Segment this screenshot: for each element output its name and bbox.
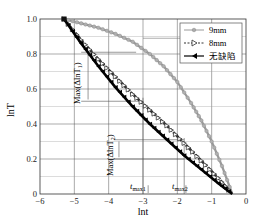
- data-marker: [131, 40, 135, 44]
- data-marker: [101, 27, 105, 31]
- data-marker: [202, 124, 206, 128]
- data-marker: [155, 58, 159, 62]
- data-marker: [215, 152, 219, 156]
- data-marker: [182, 91, 186, 95]
- y-axis-label: lnT: [5, 103, 16, 117]
- data-marker: [105, 29, 109, 33]
- y-tick-label: 0: [33, 189, 37, 199]
- data-marker: [88, 24, 92, 28]
- data-marker: [152, 55, 156, 59]
- max-delta-lnt2-label: Max(ΔlnT2): [105, 134, 116, 176]
- x-tick-label: 0: [244, 196, 248, 206]
- y-axis-ticks: 00.20.40.60.81.0: [26, 14, 37, 199]
- chart-container: −6−5−4−3−2−10 00.20.40.60.81.0 lnt lnT M…: [0, 0, 269, 223]
- y-tick-label: 0.6: [26, 84, 37, 94]
- data-marker: [210, 140, 214, 144]
- data-marker: [79, 22, 83, 26]
- data-marker: [84, 23, 88, 27]
- data-marker: [158, 61, 162, 65]
- data-marker: [194, 110, 198, 114]
- data-marker: [172, 76, 176, 80]
- data-marker: [179, 85, 183, 89]
- data-marker: [75, 20, 79, 24]
- start-marker: [62, 17, 67, 22]
- data-marker: [135, 43, 139, 47]
- data-marker: [139, 46, 143, 50]
- data-marker: [225, 178, 229, 182]
- data-marker: [92, 25, 96, 29]
- y-tick-label: 0.8: [26, 49, 37, 59]
- data-marker: [109, 31, 113, 35]
- data-marker: [212, 146, 216, 150]
- data-marker: [189, 101, 193, 105]
- data-marker: [122, 36, 126, 40]
- legend: 9mm 8mm 无缺陷: [180, 23, 242, 63]
- data-marker: [148, 52, 152, 56]
- annotation-lines: [81, 38, 191, 194]
- x-tick-label: −5: [70, 196, 79, 206]
- data-marker: [218, 158, 222, 162]
- y-tick-label: 1.0: [26, 14, 37, 24]
- x-tick-label: −2: [173, 196, 182, 206]
- svg-text:8mm: 8mm: [209, 38, 227, 48]
- x-axis-ticks: −6−5−4−3−2−10: [35, 196, 248, 206]
- x-axis-label: lnt: [138, 206, 149, 217]
- max-delta-lnt1-label: Max(ΔlnT1): [72, 62, 83, 104]
- data-marker: [127, 38, 131, 42]
- data-marker: [114, 32, 118, 36]
- y-tick-label: 0.2: [26, 154, 37, 164]
- data-marker: [169, 72, 173, 76]
- data-marker: [118, 34, 122, 38]
- data-marker: [165, 68, 169, 72]
- data-marker: [200, 119, 204, 123]
- svg-text:无缺陷: 无缺陷: [209, 51, 236, 61]
- x-tick-label: −1: [207, 196, 216, 206]
- data-marker: [162, 64, 166, 68]
- data-marker: [220, 164, 224, 168]
- data-marker: [176, 80, 180, 84]
- x-tick-label: −3: [138, 196, 147, 206]
- data-marker: [186, 96, 190, 100]
- t-max1-label: tmax1: [130, 181, 146, 192]
- x-tick-label: −4: [104, 196, 114, 206]
- data-marker: [197, 114, 201, 118]
- data-marker: [192, 106, 196, 110]
- data-marker: [71, 19, 75, 23]
- data-marker: [144, 49, 148, 53]
- data-marker: [207, 134, 211, 138]
- t-max2-label: tmax2: [172, 181, 188, 192]
- data-marker: [97, 26, 101, 30]
- circle-marker-icon: [192, 28, 196, 32]
- y-tick-label: 0.4: [26, 119, 37, 129]
- data-marker: [205, 129, 209, 133]
- data-marker: [223, 171, 227, 175]
- svg-text:9mm: 9mm: [209, 25, 227, 35]
